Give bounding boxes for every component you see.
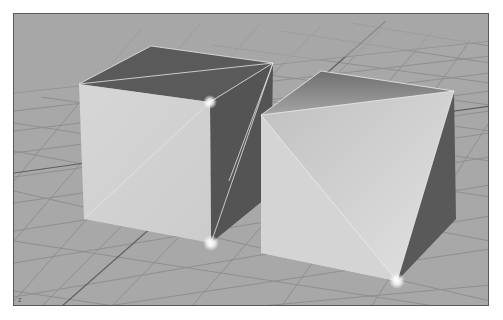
3d-viewport[interactable]: z — [13, 13, 489, 306]
cube-left-front-face — [79, 84, 211, 243]
scene-canvas[interactable] — [14, 14, 489, 306]
vertex-highlight — [203, 235, 219, 251]
vertex-highlight — [389, 273, 405, 289]
vertex-highlight — [203, 95, 217, 109]
axis-indicator: z — [18, 296, 22, 303]
